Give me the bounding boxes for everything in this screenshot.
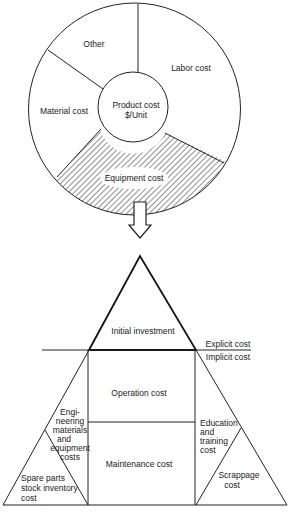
svg-text:cost: cost [21, 493, 37, 503]
svg-text:cost: cost [224, 480, 240, 490]
svg-text:costs: costs [60, 452, 80, 462]
label-implicit-cost: Implicit cost [206, 352, 251, 362]
svg-text:stock inventory: stock inventory [21, 483, 78, 493]
segment-label-other: Other [83, 39, 104, 49]
label-education-training: Education and training cost [200, 418, 238, 455]
label-spare-parts: Spare parts stock inventory cost [21, 473, 78, 503]
cost-pie: Other Labor cost Material cost Equipment… [29, 3, 241, 230]
cost-pyramid: Initial investment Explicit cost Implici… [3, 256, 287, 505]
center-label-line1: Product cost [112, 100, 160, 110]
segment-label-material: Material cost [40, 106, 89, 116]
segment-label-labor: Labor cost [171, 63, 211, 73]
label-engineering-materials: Engi- neering materials and equipment co… [50, 407, 90, 462]
segment-label-equipment: Equipment cost [105, 173, 164, 183]
label-maintenance-cost: Maintenance cost [106, 459, 173, 469]
label-initial-investment: Initial investment [111, 326, 175, 336]
svg-text:cost: cost [200, 445, 216, 455]
divider-other-material [48, 50, 103, 89]
label-operation-cost: Operation cost [111, 388, 167, 398]
label-scrappage: Scrappage cost [218, 470, 259, 490]
svg-text:Scrappage: Scrappage [218, 470, 259, 480]
svg-text:Spare parts: Spare parts [21, 473, 65, 483]
label-explicit-cost: Explicit cost [206, 339, 252, 349]
center-label-line2: $/Unit [125, 110, 148, 120]
product-cost-diagram: Other Labor cost Material cost Equipment… [0, 0, 291, 514]
